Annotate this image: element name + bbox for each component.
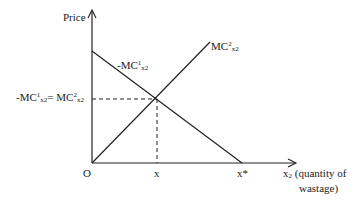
x-star-tick-label: x* [237,167,248,179]
neg-mc1-label: -MC1x2 [117,59,148,71]
x-axis-label-line2: wastage) [299,182,338,194]
mc2-label: MC2x2 [211,40,239,52]
x-axis-label: x2 (quantity of [283,167,346,179]
neg-mc1-curve [92,51,242,163]
mc2-curve [92,42,210,163]
origin-label: O [83,167,91,179]
y-axis-label: Price [63,11,86,23]
equilibrium-price-label: -MC1x2= MC2x2 [16,91,84,103]
x-tick-label: x [154,167,160,179]
